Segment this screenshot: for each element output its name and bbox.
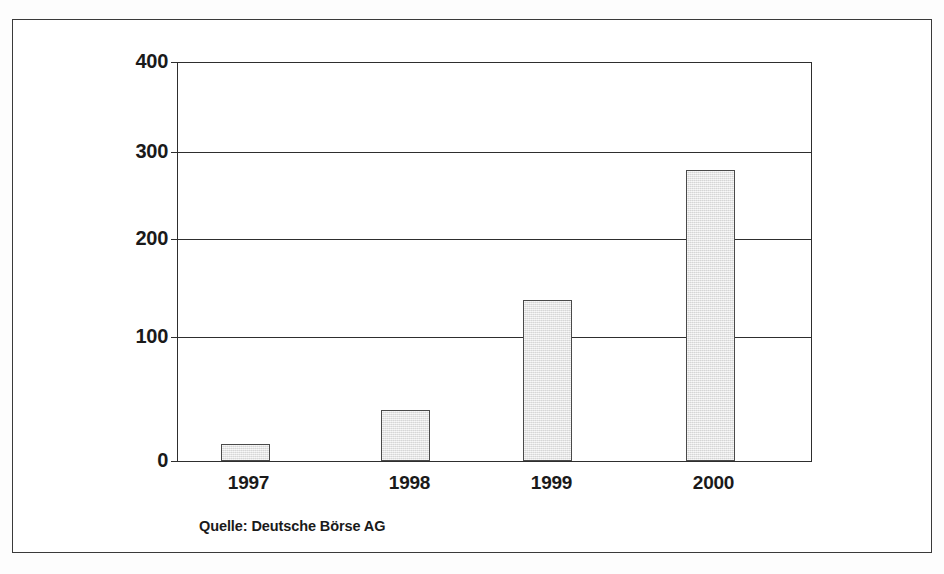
- y-axis-line: [177, 62, 178, 461]
- source-note: Quelle: Deutsche Börse AG: [199, 518, 385, 534]
- gridline-400: [177, 62, 812, 63]
- chart-figure: 400 300 200 100 0 1997 1998 1999 2000 Qu…: [0, 0, 944, 574]
- y-tick-label-300: 300: [128, 140, 168, 163]
- bar-1999: [523, 300, 572, 461]
- gridline-0: [177, 461, 812, 462]
- y-tick-label-100: 100: [128, 325, 168, 348]
- x-tick-label-1997: 1997: [186, 472, 311, 494]
- bar-1998: [381, 410, 430, 461]
- y-tick-label-400: 400: [128, 50, 168, 73]
- x-tick-label-1998: 1998: [347, 472, 472, 494]
- gridline-300: [177, 152, 812, 153]
- x-tick-label-1999: 1999: [489, 472, 614, 494]
- x-tick-label-2000: 2000: [651, 472, 776, 494]
- plot-right-border: [811, 62, 812, 461]
- bar-1997: [221, 444, 270, 461]
- y-tick-label-0: 0: [128, 449, 168, 472]
- y-tick-label-200: 200: [128, 227, 168, 250]
- bar-2000: [686, 170, 735, 461]
- plot-area: [177, 62, 812, 461]
